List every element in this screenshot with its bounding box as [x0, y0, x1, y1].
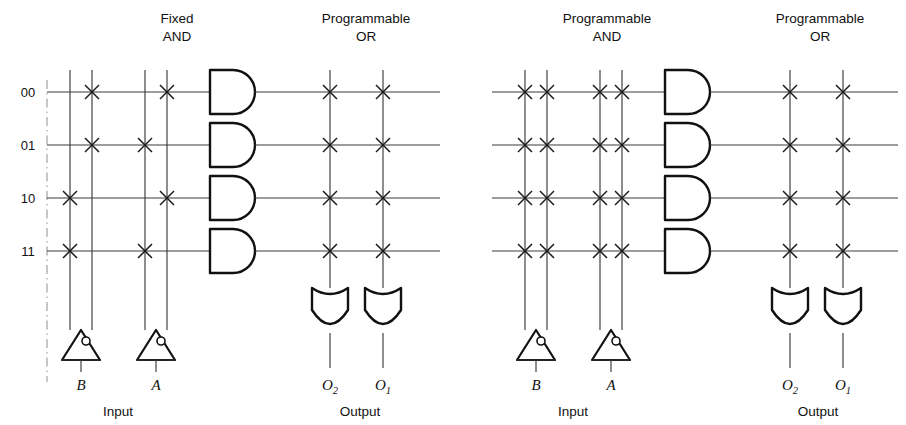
- or-plane-crosspoints-right: [783, 85, 850, 258]
- heading-and-plane-line2: AND: [163, 29, 192, 44]
- input-buffer-a-right: [592, 330, 630, 372]
- or-gate-o1-right: [825, 288, 861, 324]
- output-label-o2: O2: [322, 377, 339, 396]
- or-gate-o2: [312, 288, 348, 324]
- or-gate-o2-right: [772, 288, 808, 324]
- and-gate-3: [210, 229, 255, 273]
- or-gate-o1: [365, 288, 401, 324]
- panel-right: Programmable AND Programmable OR: [492, 11, 898, 419]
- and-gate-2-right: [665, 176, 710, 220]
- heading-or-plane-line2-right: OR: [810, 29, 831, 44]
- row-label-2: 10: [21, 191, 35, 206]
- row-label-3: 11: [21, 244, 35, 259]
- input-label-b-right: B: [531, 377, 540, 393]
- logic-array-diagram: Fixed AND Programmable OR 00 01 10 11: [0, 0, 906, 425]
- output-label-o1-right: O1: [835, 377, 851, 396]
- figure-canvas: Fixed AND Programmable OR 00 01 10 11: [0, 0, 906, 425]
- footer-output: Output: [340, 404, 381, 419]
- and-gate-1-right: [665, 123, 710, 167]
- input-buffer-a: [137, 330, 175, 372]
- and-plane-crosspoints-right: [518, 85, 629, 258]
- panel-left: Fixed AND Programmable OR 00 01 10 11: [21, 11, 440, 419]
- heading-and-plane-line2-right: AND: [593, 29, 622, 44]
- and-gate-0-right: [665, 70, 710, 114]
- footer-input: Input: [103, 404, 133, 419]
- and-gate-2: [210, 176, 255, 220]
- and-gate-3-right: [665, 229, 710, 273]
- footer-output-right: Output: [798, 404, 839, 419]
- heading-or-plane-line1: Programmable: [322, 11, 411, 26]
- heading-and-plane-line1: Fixed: [160, 11, 193, 26]
- and-gate-1: [210, 123, 255, 167]
- heading-and-plane-line1-right: Programmable: [563, 11, 652, 26]
- footer-input-right: Input: [558, 404, 588, 419]
- input-label-b: B: [76, 377, 85, 393]
- output-label-o1: O1: [375, 377, 391, 396]
- input-label-a-right: A: [605, 377, 616, 393]
- input-buffer-b-right: [517, 330, 555, 372]
- heading-or-plane-line2: OR: [356, 29, 377, 44]
- input-label-a: A: [150, 377, 161, 393]
- input-buffer-b: [62, 330, 100, 372]
- output-label-o2-right: O2: [782, 377, 799, 396]
- and-gate-0: [210, 70, 255, 114]
- row-label-1: 01: [21, 138, 35, 153]
- row-label-0: 00: [21, 85, 35, 100]
- or-plane-crosspoints: [323, 85, 390, 258]
- heading-or-plane-line1-right: Programmable: [776, 11, 865, 26]
- and-plane-crosspoints: [63, 85, 174, 258]
